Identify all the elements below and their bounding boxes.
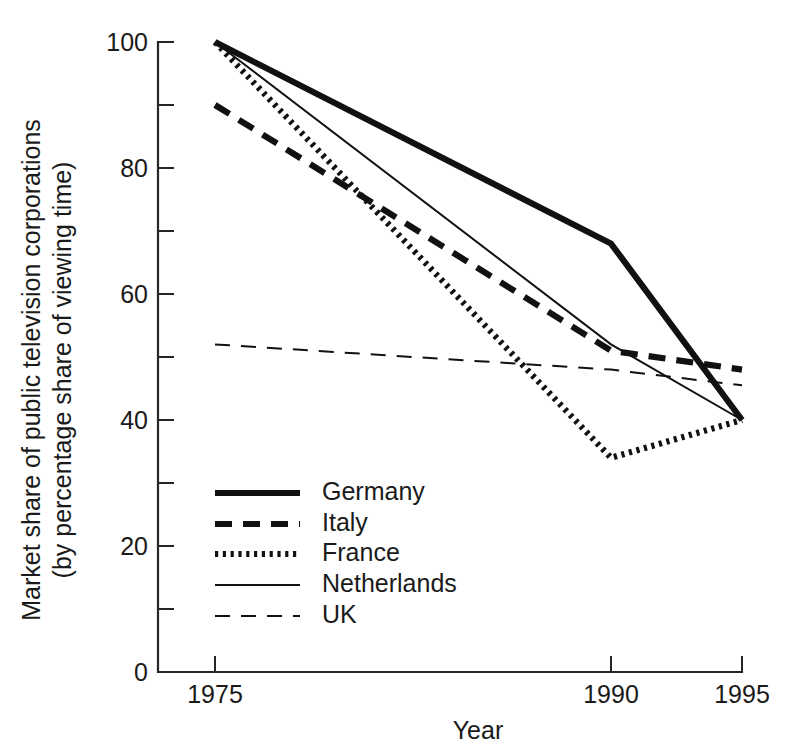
y-tick-label-40: 40 (120, 406, 148, 434)
legend-label-netherlands: Netherlands (322, 569, 457, 597)
x-axis-ticks (215, 656, 742, 672)
y-axis-ticks (158, 42, 174, 672)
y-axis-tick-labels: 0 20 40 60 80 100 (106, 28, 148, 686)
y-axis-title-line1: Market share of public television corpor… (17, 119, 45, 621)
series-line-italy (215, 105, 742, 370)
series-line-netherlands (215, 42, 742, 420)
legend-item-uk: UK (215, 600, 357, 628)
legend-label-germany: Germany (322, 477, 425, 505)
series-line-germany (215, 42, 742, 420)
x-axis-title: Year (453, 716, 504, 744)
legend-label-france: France (322, 538, 400, 566)
legend-item-italy: Italy (215, 508, 368, 536)
data-series-group (215, 42, 742, 458)
legend-item-netherlands: Netherlands (215, 569, 457, 597)
chart-figure: 0 20 40 60 80 100 1975 1990 1995 Year Ma… (0, 0, 801, 754)
x-tick-label-1990: 1990 (583, 680, 639, 708)
x-tick-label-1975: 1975 (187, 680, 243, 708)
y-tick-label-60: 60 (120, 280, 148, 308)
y-tick-label-0: 0 (134, 658, 148, 686)
legend-item-france: France (215, 538, 400, 566)
legend-label-uk: UK (322, 600, 357, 628)
x-axis-tick-labels: 1975 1990 1995 (187, 680, 770, 708)
x-tick-label-1995: 1995 (714, 680, 770, 708)
y-tick-label-100: 100 (106, 28, 148, 56)
y-tick-label-80: 80 (120, 154, 148, 182)
y-axis-title-line2: (by percentage share of viewing time) (48, 162, 76, 579)
series-line-uk (215, 344, 742, 385)
series-line-france (215, 42, 742, 458)
line-chart: 0 20 40 60 80 100 1975 1990 1995 Year Ma… (0, 0, 801, 754)
legend: Germany Italy France Netherlands UK (215, 477, 457, 628)
legend-label-italy: Italy (322, 508, 368, 536)
y-tick-label-20: 20 (120, 532, 148, 560)
legend-item-germany: Germany (215, 477, 425, 505)
